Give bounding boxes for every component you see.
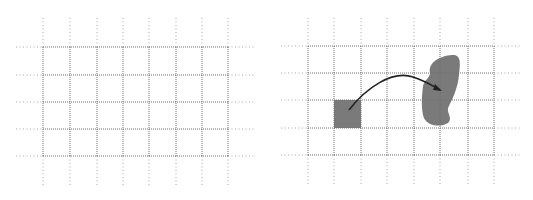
source-square	[334, 100, 361, 128]
grid-diagram	[0, 0, 533, 200]
diagram-canvas	[0, 0, 533, 200]
